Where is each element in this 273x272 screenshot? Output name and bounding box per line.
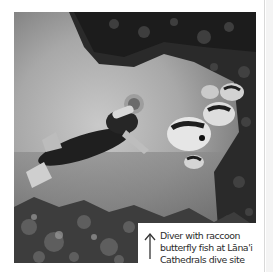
caption-text: Diver with raccoon butterfly fish at Lān… [160, 230, 260, 267]
page-edge-line [264, 0, 265, 272]
caption-line-3: Cathedrals dive site [160, 254, 260, 266]
caption-line-1: Diver with raccoon [160, 230, 260, 242]
up-arrow-icon [144, 232, 156, 260]
adjacent-page-strip [266, 0, 273, 272]
caption-line-2: butterfly fish at Lāna'i [160, 242, 260, 254]
photo-caption: Diver with raccoon butterfly fish at Lān… [138, 223, 256, 272]
